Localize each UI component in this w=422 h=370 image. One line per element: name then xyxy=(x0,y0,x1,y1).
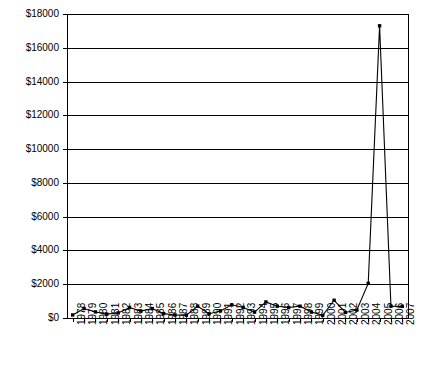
y-axis-tick-label: $10000 xyxy=(0,144,59,154)
y-axis-tick-label: $4000 xyxy=(0,245,59,255)
chart-container: $18000$16000$14000$12000$10000$8000$6000… xyxy=(0,0,422,370)
x-axis-tick-label: 2003 xyxy=(361,303,371,325)
x-axis-tick-label: 1982 xyxy=(122,303,132,325)
x-axis-tick-label: 2005 xyxy=(384,303,394,325)
x-axis-tick-label: 1985 xyxy=(156,303,166,325)
y-axis-tick-label: $12000 xyxy=(0,110,59,120)
x-axis-tick-label: 2006 xyxy=(395,303,405,325)
y-axis-tick-label: $8000 xyxy=(0,178,59,188)
x-axis-tick-label: 1998 xyxy=(304,303,314,325)
data-point-marker xyxy=(71,313,74,316)
x-axis-tick-label: 1986 xyxy=(168,303,178,325)
y-axis-tick-label: $0 xyxy=(0,313,59,323)
data-point-marker xyxy=(378,24,381,27)
x-axis-tick-label: 1983 xyxy=(134,303,144,325)
x-axis-tick-label: 2001 xyxy=(338,303,348,325)
x-axis-tick-label: 1993 xyxy=(247,303,257,325)
x-axis-tick-label: 1999 xyxy=(315,303,325,325)
x-axis-tick-label: 1989 xyxy=(202,303,212,325)
data-series-line xyxy=(73,26,403,315)
y-axis-tick-label: $2000 xyxy=(0,279,59,289)
y-axis-tick-label: $18000 xyxy=(0,9,59,19)
x-axis-tick-label: 2000 xyxy=(327,303,337,325)
x-axis-tick-label: 1987 xyxy=(179,303,189,325)
x-axis-tick-label: 1981 xyxy=(111,303,121,325)
x-axis-tick-label: 2002 xyxy=(349,303,359,325)
data-point-marker xyxy=(367,282,370,285)
plot-frame xyxy=(68,15,409,319)
x-axis-tick-label: 1997 xyxy=(293,303,303,325)
x-axis-tick-label: 1992 xyxy=(236,303,246,325)
x-axis-tick-label: 1984 xyxy=(145,303,155,325)
x-axis-tick-label: 1990 xyxy=(213,303,223,325)
x-axis-tick-label: 2004 xyxy=(372,303,382,325)
x-axis-tick-label: 1979 xyxy=(88,303,98,325)
x-axis-tick-label: 1995 xyxy=(270,303,280,325)
y-axis-tick-label: $14000 xyxy=(0,77,59,87)
x-axis-tick-label: 2007 xyxy=(406,303,416,325)
y-axis-tick-label: $6000 xyxy=(0,212,59,222)
data-point-marker xyxy=(332,299,335,302)
y-axis-tick-label: $16000 xyxy=(0,43,59,53)
x-axis-tick-label: 1994 xyxy=(259,303,269,325)
x-axis-tick-label: 1996 xyxy=(281,303,291,325)
x-axis-tick-label: 1978 xyxy=(77,303,87,325)
x-axis-tick-label: 1988 xyxy=(190,303,200,325)
x-axis-tick-label: 1980 xyxy=(99,303,109,325)
x-axis-tick-label: 1991 xyxy=(224,303,234,325)
